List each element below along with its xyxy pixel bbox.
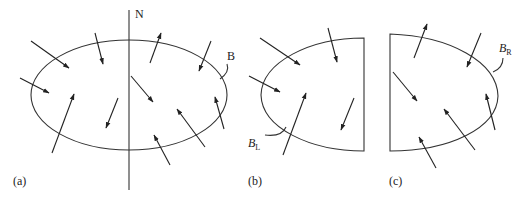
boundary-label-br: BR bbox=[499, 41, 512, 57]
flux-arrows-a bbox=[20, 33, 224, 165]
panel-b: BL (b) bbox=[248, 28, 364, 188]
boundary-br-leader bbox=[493, 58, 503, 72]
divider-label-n: N bbox=[135, 7, 144, 21]
boundary-bl-leader bbox=[265, 127, 286, 135]
boundary-label-bl: BL bbox=[248, 136, 260, 152]
boundary-bl-shape bbox=[261, 38, 364, 151]
boundary-label-b: B bbox=[227, 49, 235, 63]
flux-arrows-c bbox=[393, 24, 495, 168]
region-split-diagram: N B (a) BL bbox=[0, 0, 525, 199]
flux-arrows-b bbox=[249, 28, 354, 155]
panel-c: BR (c) bbox=[389, 24, 512, 188]
panel-label-c: (c) bbox=[389, 174, 402, 188]
panel-label-a: (a) bbox=[13, 174, 26, 188]
panel-label-b: (b) bbox=[248, 174, 262, 188]
boundary-br-shape bbox=[390, 34, 498, 151]
panel-a: N B (a) bbox=[13, 7, 235, 190]
